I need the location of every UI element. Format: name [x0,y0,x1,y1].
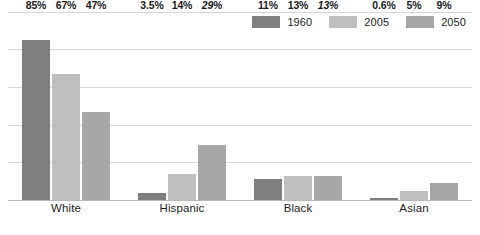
category-label-white: White [8,203,124,215]
bar-group-asian: 0.6%5%9% [356,12,472,200]
bar-asian-2050[interactable]: 9% [430,12,458,200]
legend-swatch-1960 [252,16,280,28]
bar-group-white: 85%67%47% [8,12,124,200]
bar-value-label: 11% [258,0,278,10]
bar-chart: 1960 2005 2050 85%67%47%3.5%14%29%11%13%… [0,0,480,235]
chart-legend: 1960 2005 2050 [252,16,466,28]
category-label-black: Black [240,203,356,215]
bar-value-label: 67% [56,0,77,10]
bar-hispanic-2050[interactable]: 29% [198,12,226,200]
bar-rect [284,176,312,200]
category-label-asian: Asian [356,203,472,215]
bar-value-label: 9% [437,0,452,10]
axis-baseline [8,200,472,201]
bar-white-1960[interactable]: 85% [22,12,50,200]
bar-value-label: 13% [288,0,309,10]
bar-asian-1960[interactable]: 0.6% [370,12,398,200]
legend-item-1960[interactable]: 1960 [252,16,312,28]
bar-value-label: 13% [318,0,339,10]
bar-rect [370,198,398,200]
bar-asian-2005[interactable]: 5% [400,12,428,200]
bar-value-label: 0.6% [372,0,396,10]
bar-rect [430,183,458,200]
bar-rect [198,145,226,200]
legend-label-2005: 2005 [364,17,389,28]
bar-group-black: 11%13%13% [240,12,356,200]
legend-label-1960: 1960 [287,17,312,28]
bar-white-2005[interactable]: 67% [52,12,80,200]
bar-black-2005[interactable]: 13% [284,12,312,200]
bar-hispanic-2005[interactable]: 14% [168,12,196,200]
bar-rect [254,179,282,200]
bar-white-2050[interactable]: 47% [82,12,110,200]
bar-value-label: 29% [202,0,223,10]
bar-rect [314,176,342,200]
bar-black-1960[interactable]: 11% [254,12,282,200]
legend-swatch-2005 [329,16,357,28]
legend-item-2050[interactable]: 2050 [406,16,466,28]
bar-value-label: 85% [26,0,47,10]
bar-rect [52,74,80,200]
bar-group-hispanic: 3.5%14%29% [124,12,240,200]
category-axis: WhiteHispanicBlackAsian [8,203,472,215]
bar-value-label: 47% [86,0,107,10]
plot-area: 85%67%47%3.5%14%29%11%13%13%0.6%5%9% [8,12,472,200]
bar-black-2050[interactable]: 13% [314,12,342,200]
bar-rect [400,191,428,200]
bar-value-label: 14% [172,0,193,10]
bar-rect [168,174,196,200]
bar-rect [138,193,166,200]
legend-swatch-2050 [406,16,434,28]
legend-label-2050: 2050 [441,17,466,28]
category-label-hispanic: Hispanic [124,203,240,215]
legend-item-2005[interactable]: 2005 [329,16,389,28]
bar-value-label: 5% [407,0,422,10]
bar-value-label: 3.5% [140,0,164,10]
bar-hispanic-1960[interactable]: 3.5% [138,12,166,200]
bar-rect [22,40,50,200]
bar-rect [82,112,110,200]
